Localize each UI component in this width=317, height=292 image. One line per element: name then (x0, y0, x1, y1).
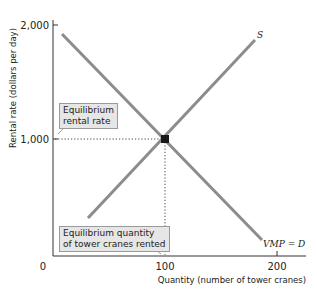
supply-curve (88, 40, 255, 218)
x-tick-label-0: 0 (40, 261, 46, 272)
supply-curve-label: S (257, 30, 263, 40)
callout-line: Equilibrium quantity (63, 228, 166, 239)
x-axis-title: Quantity (number of tower cranes) (158, 275, 306, 285)
equilibrium-rate-callout: Equilibrium rental rate (59, 103, 118, 129)
y-tick-label-1000: 1,000 (20, 134, 49, 145)
y-axis-title: Rental rate (dollars per day) (8, 28, 18, 148)
equilibrium-quantity-callout: Equilibrium quantity of tower cranes ren… (59, 226, 170, 252)
demand-curve-label: VMP = D (263, 239, 305, 249)
callout-line: Equilibrium (63, 105, 114, 116)
x-tick-label-100: 100 (155, 261, 174, 272)
callout-line: rental rate (63, 116, 114, 127)
x-tick-label-200: 200 (267, 261, 286, 272)
callout-line: of tower cranes rented (63, 239, 166, 250)
y-tick-label-2000: 2,000 (20, 20, 49, 31)
equilibrium-point (161, 135, 169, 143)
